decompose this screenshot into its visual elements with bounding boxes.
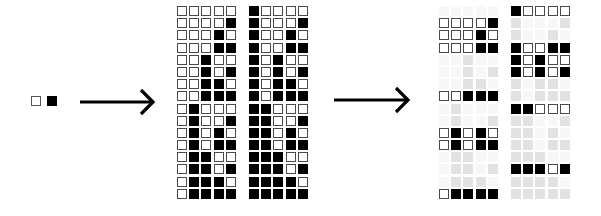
faded-cell: [560, 152, 570, 162]
faded-cell: [560, 30, 570, 40]
faded-cell: [523, 152, 533, 162]
white-cell: [214, 18, 224, 28]
black-cell: [463, 91, 473, 101]
black-cell: [214, 189, 224, 199]
arrow-to-grids-icon: [80, 90, 153, 114]
black-cell: [214, 91, 224, 101]
faded-cell: [488, 116, 498, 126]
white-cell: [463, 128, 473, 138]
white-cell: [189, 79, 199, 89]
faded-cell: [560, 177, 570, 187]
faded-cell: [451, 164, 461, 174]
white-cell: [214, 55, 224, 65]
white-cell: [273, 6, 283, 16]
faded-cell: [463, 164, 473, 174]
faded-cell: [488, 152, 498, 162]
black-cell: [189, 116, 199, 126]
black-cell: [214, 177, 224, 187]
black-cell: [226, 91, 236, 101]
faded-cell: [511, 79, 521, 89]
faded-cell: [548, 116, 558, 126]
white-cell: [286, 164, 296, 174]
faded-cell: [535, 128, 545, 138]
white-cell: [177, 6, 187, 16]
white-cell: [189, 55, 199, 65]
black-cell: [298, 189, 308, 199]
faded-cell: [463, 79, 473, 89]
black-cell: [249, 152, 259, 162]
white-cell: [286, 116, 296, 126]
faded-cell: [476, 104, 486, 114]
white-cell: [548, 67, 558, 77]
faded-cell: [535, 18, 545, 28]
white-cell: [261, 91, 271, 101]
white-cell: [298, 6, 308, 16]
faded-cell: [535, 116, 545, 126]
faded-cell: [560, 128, 570, 138]
white-cell: [286, 55, 296, 65]
black-cell: [226, 18, 236, 28]
faded-cell: [523, 177, 533, 187]
black-cell: [249, 18, 259, 28]
black-cell: [286, 43, 296, 53]
faded-cell: [523, 18, 533, 28]
white-cell: [560, 55, 570, 65]
white-cell: [451, 30, 461, 40]
faded-cell: [511, 18, 521, 28]
white-cell: [226, 6, 236, 16]
white-cell: [214, 104, 224, 114]
black-cell: [476, 30, 486, 40]
faded-cell: [476, 164, 486, 174]
white-cell: [439, 18, 449, 28]
black-cell: [261, 189, 271, 199]
white-cell: [177, 79, 187, 89]
white-cell: [451, 43, 461, 53]
black-cell: [476, 140, 486, 150]
white-cell: [226, 152, 236, 162]
black-cell: [214, 140, 224, 150]
faded-cell: [523, 140, 533, 150]
faded-cell: [548, 189, 558, 199]
black-cell: [511, 67, 521, 77]
white-cell: [177, 128, 187, 138]
black-cell: [298, 18, 308, 28]
black-cell: [249, 189, 259, 199]
white-cell: [201, 128, 211, 138]
white-cell: [189, 18, 199, 28]
faded-cell: [560, 91, 570, 101]
black-cell: [488, 18, 498, 28]
white-cell: [201, 30, 211, 40]
white-cell: [488, 30, 498, 40]
faded-cell: [548, 177, 558, 187]
faded-cell: [439, 104, 449, 114]
faded-cell: [511, 128, 521, 138]
white-cell: [201, 6, 211, 16]
white-cell: [177, 43, 187, 53]
black-cell: [511, 6, 521, 16]
faded-cell: [535, 152, 545, 162]
faded-cell: [523, 189, 533, 199]
white-cell: [201, 43, 211, 53]
faded-cell: [511, 140, 521, 150]
white-cell: [523, 55, 533, 65]
black-cell: [298, 140, 308, 150]
white-cell: [177, 91, 187, 101]
black-cell: [249, 177, 259, 187]
black-cell: [201, 67, 211, 77]
white-cell: [439, 30, 449, 40]
faded-cell: [535, 140, 545, 150]
white-cell: [177, 18, 187, 28]
black-cell: [249, 6, 259, 16]
black-cell: [298, 164, 308, 174]
faded-cell: [451, 104, 461, 114]
white-cell: [560, 104, 570, 114]
black-cell: [535, 164, 545, 174]
white-cell: [523, 43, 533, 53]
white-cell: [201, 18, 211, 28]
black-cell: [273, 177, 283, 187]
faded-cell: [560, 189, 570, 199]
white-cell: [273, 18, 283, 28]
white-cell: [535, 6, 545, 16]
black-cell: [249, 55, 259, 65]
faded-cell: [488, 6, 498, 16]
